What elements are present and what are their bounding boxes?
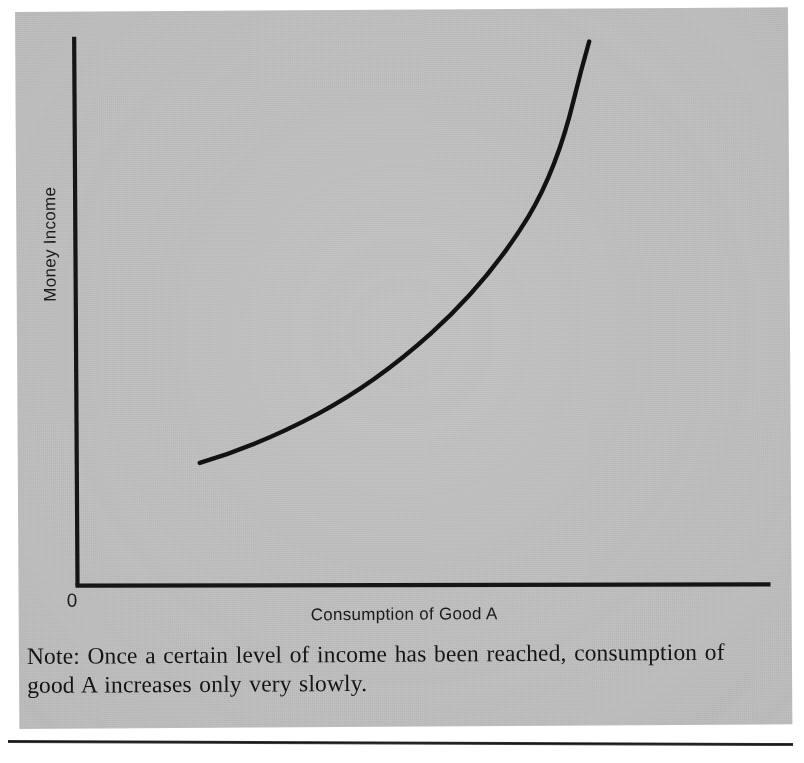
origin-tick-label: 0 bbox=[67, 590, 78, 612]
figure-panel: Money Income Consumption of Good A 0 Not… bbox=[15, 7, 792, 729]
x-axis-line bbox=[76, 581, 771, 588]
figure-note: Note: Once a certain level of income has… bbox=[27, 637, 767, 699]
y-axis-line bbox=[74, 37, 77, 586]
x-axis-label: Consumption of Good A bbox=[311, 604, 498, 625]
bottom-divider-rule bbox=[8, 740, 793, 746]
figure-page: Money Income Consumption of Good A 0 Not… bbox=[0, 0, 804, 763]
engel-curve bbox=[197, 41, 592, 462]
y-axis-label: Money Income bbox=[40, 187, 61, 302]
